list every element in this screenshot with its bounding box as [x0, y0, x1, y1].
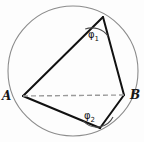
circle-geometry-canvas [0, 0, 144, 142]
angle-label-phi2-symbol: φ [84, 110, 91, 121]
angle-label-phi2: φ2 [84, 111, 95, 124]
segment-top-vertex-to-b [103, 17, 124, 95]
geometry-figure: A B φ1 φ2 [0, 0, 144, 142]
vertex-label-b: B [130, 89, 140, 101]
chord-ab-dashed [23, 95, 124, 96]
angle-label-phi1-subscript: 1 [95, 35, 99, 43]
angle-label-phi1-symbol: φ [88, 29, 95, 40]
angle-label-phi1: φ1 [88, 30, 99, 43]
angle-label-phi2-subscript: 2 [91, 116, 95, 124]
vertex-label-a: A [2, 90, 11, 102]
